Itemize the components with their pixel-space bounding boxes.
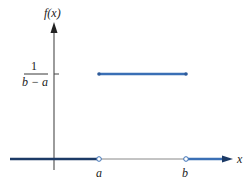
x-axis-label: x [236, 152, 243, 166]
closed-point-a [97, 72, 101, 76]
fraction-numerator: 1 [31, 59, 37, 73]
open-point-a [97, 157, 102, 162]
open-point-b [184, 157, 189, 162]
y-axis-arrow-icon [51, 22, 58, 33]
y-axis-label: f(x) [44, 6, 61, 20]
uniform-density-chart: f(x) x a b 1 b − a [0, 0, 247, 182]
closed-point-b [184, 72, 188, 76]
tick-label-b: b [182, 166, 188, 180]
tick-label-a: a [96, 166, 102, 180]
fraction-denominator: b − a [22, 75, 48, 89]
x-axis-arrow-icon [222, 156, 233, 163]
